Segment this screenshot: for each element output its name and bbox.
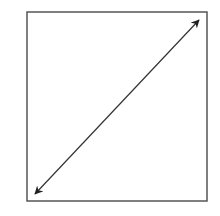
diagram-svg [0, 0, 220, 216]
double-headed-arrow-icon [35, 20, 199, 194]
diagram-canvas [0, 0, 220, 216]
